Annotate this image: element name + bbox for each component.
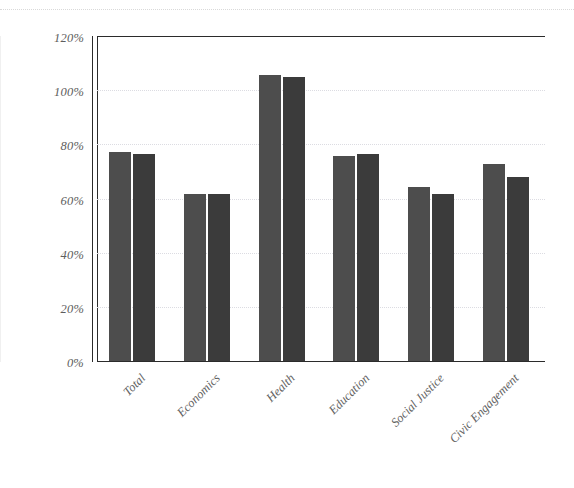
- bar[interactable]: [432, 194, 454, 361]
- y-axis-tick-label: 40%: [18, 245, 84, 263]
- bar[interactable]: [408, 187, 430, 361]
- bar[interactable]: [109, 152, 131, 361]
- bar[interactable]: [483, 164, 505, 361]
- bar[interactable]: [283, 77, 305, 361]
- y-axis-tick-label: 120%: [18, 28, 84, 46]
- bar[interactable]: [184, 194, 206, 361]
- y-axis-tick-text: 120%: [54, 31, 84, 45]
- y-axis-tick-label: 0%: [18, 353, 84, 371]
- page-scan-rule: [0, 9, 574, 11]
- y-axis-tick-text: 40%: [60, 248, 84, 262]
- plot-top-border: [97, 36, 545, 37]
- y-axis-tick-label: 80%: [18, 136, 84, 154]
- bar[interactable]: [208, 194, 230, 361]
- y-axis-line-outer: [92, 36, 93, 362]
- y-axis-tick-text: 0%: [67, 356, 84, 370]
- gridline: [97, 144, 545, 145]
- y-axis-tick-label: 60%: [18, 191, 84, 209]
- gridline: [97, 90, 545, 91]
- page-edge-mark: [0, 36, 1, 362]
- chart-figure: 0%20%40%60%80%100%120% TotalEconomicsHea…: [0, 0, 574, 488]
- y-axis-tick-label: 20%: [18, 299, 84, 317]
- y-axis-tick-text: 20%: [60, 302, 84, 316]
- gridline: [97, 253, 545, 254]
- y-axis-tick-text: 100%: [54, 85, 84, 99]
- bar[interactable]: [507, 177, 529, 361]
- gridline: [97, 307, 545, 308]
- plot-area: [97, 36, 545, 361]
- bar[interactable]: [259, 75, 281, 361]
- x-axis-line: [97, 361, 545, 362]
- bar[interactable]: [357, 154, 379, 361]
- y-axis-tick-text: 60%: [60, 194, 84, 208]
- gridline: [97, 199, 545, 200]
- y-axis-tick-label: 100%: [18, 82, 84, 100]
- bar[interactable]: [133, 154, 155, 361]
- bar[interactable]: [333, 156, 355, 361]
- y-axis-tick-text: 80%: [60, 139, 84, 153]
